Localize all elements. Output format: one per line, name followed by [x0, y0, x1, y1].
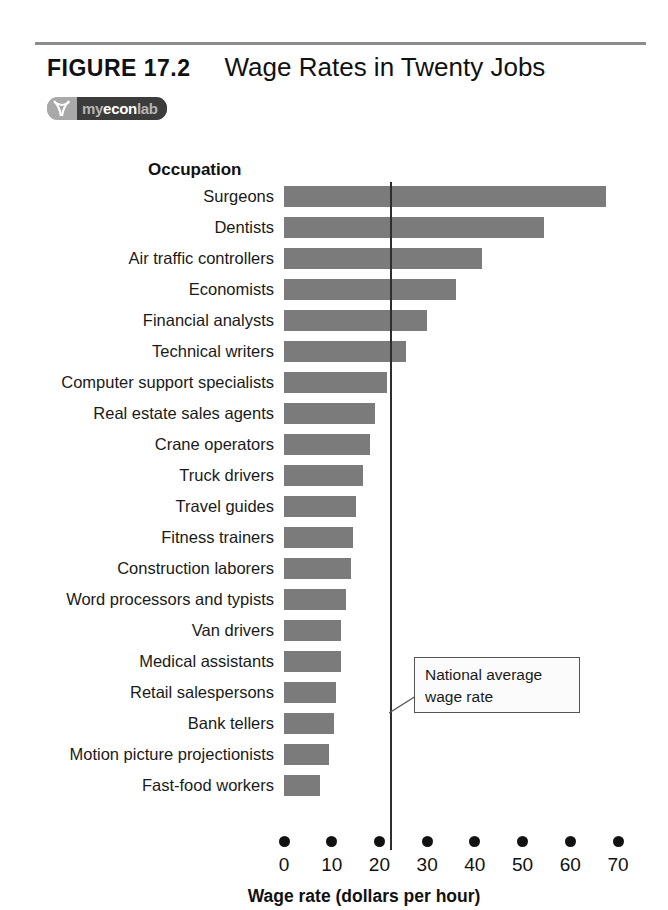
- bar: [284, 279, 456, 300]
- bar-category-label: Medical assistants: [0, 651, 274, 672]
- bar: [284, 682, 336, 703]
- national-average-callout: National average wage rate: [414, 657, 580, 713]
- x-axis: Wage rate (dollars per hour) 01020304050…: [0, 836, 668, 910]
- x-tick-dot: [469, 836, 480, 847]
- bar-category-label: Fitness trainers: [0, 527, 274, 548]
- bar-category-label: Financial analysts: [0, 310, 274, 331]
- bar-category-label: Real estate sales agents: [0, 403, 274, 424]
- bar-category-label: Travel guides: [0, 496, 274, 517]
- bar-category-label: Computer support specialists: [0, 372, 274, 393]
- bar-row: Construction laborers: [0, 558, 668, 589]
- bar: [284, 775, 320, 796]
- bar-category-label: Crane operators: [0, 434, 274, 455]
- bar-category-label: Construction laborers: [0, 558, 274, 579]
- bar-row: Financial analysts: [0, 310, 668, 341]
- bar-row: Crane operators: [0, 434, 668, 465]
- myeconlab-wordmark: myeconlab: [77, 97, 167, 120]
- myeconlab-logo-icon: [47, 97, 77, 120]
- bar: [284, 465, 363, 486]
- callout-line-2: wage rate: [425, 686, 571, 708]
- bar-category-label: Air traffic controllers: [0, 248, 274, 269]
- bar: [284, 713, 334, 734]
- bar: [284, 558, 351, 579]
- bar: [284, 248, 482, 269]
- x-tick-dot: [517, 836, 528, 847]
- bar: [284, 310, 427, 331]
- bar-row: Air traffic controllers: [0, 248, 668, 279]
- bar-category-label: Truck drivers: [0, 465, 274, 486]
- bar: [284, 341, 406, 362]
- x-tick-dot: [279, 836, 290, 847]
- bar-row: Fast-food workers: [0, 775, 668, 806]
- x-tick-label: 10: [309, 854, 355, 876]
- national-average-wage-line: [390, 182, 392, 850]
- x-tick-dot: [613, 836, 624, 847]
- bar-row: Real estate sales agents: [0, 403, 668, 434]
- bar-category-label: Dentists: [0, 217, 274, 238]
- badge-my-text: my: [82, 100, 103, 117]
- x-tick-label: 40: [452, 854, 498, 876]
- bar-row: Truck drivers: [0, 465, 668, 496]
- bar: [284, 527, 353, 548]
- bar: [284, 589, 346, 610]
- bar: [284, 434, 370, 455]
- x-tick-label: 50: [500, 854, 546, 876]
- bar: [284, 372, 387, 393]
- x-tick-label: 0: [261, 854, 307, 876]
- bar-row: Motion picture projectionists: [0, 744, 668, 775]
- x-tick-dot: [422, 836, 433, 847]
- figure-header: FIGURE 17.2 Wage Rates in Twenty Jobs: [47, 52, 647, 90]
- header-divider: [35, 42, 646, 45]
- x-tick-dot: [326, 836, 337, 847]
- bar-row: Surgeons: [0, 186, 668, 217]
- bar: [284, 620, 341, 641]
- badge-econ-text: econ: [103, 100, 137, 117]
- bar-category-label: Motion picture projectionists: [0, 744, 274, 765]
- bar: [284, 651, 341, 672]
- x-tick-label: 30: [404, 854, 450, 876]
- x-tick-dot: [565, 836, 576, 847]
- bar-row: Fitness trainers: [0, 527, 668, 558]
- bar: [284, 496, 356, 517]
- y-axis-title: Occupation: [148, 160, 242, 180]
- plot-area: SurgeonsDentistsAir traffic controllersE…: [0, 186, 668, 816]
- callout-line-1: National average: [425, 664, 571, 686]
- bar-row: Bank tellers: [0, 713, 668, 744]
- bar: [284, 403, 375, 424]
- bar-category-label: Fast-food workers: [0, 775, 274, 796]
- bar-category-label: Economists: [0, 279, 274, 300]
- bar-category-label: Bank tellers: [0, 713, 274, 734]
- bar-row: Travel guides: [0, 496, 668, 527]
- bar-row: Van drivers: [0, 620, 668, 651]
- x-tick-dot: [374, 836, 385, 847]
- x-tick-label: 20: [356, 854, 402, 876]
- bar-row: Technical writers: [0, 341, 668, 372]
- bar-category-label: Retail salespersons: [0, 682, 274, 703]
- figure-title: Wage Rates in Twenty Jobs: [225, 52, 546, 83]
- bar-row: Economists: [0, 279, 668, 310]
- bar: [284, 186, 606, 207]
- figure-number: FIGURE 17.2: [47, 55, 191, 82]
- bar-category-label: Technical writers: [0, 341, 274, 362]
- x-tick-label: 60: [547, 854, 593, 876]
- x-axis-title: Wage rate (dollars per hour): [0, 886, 668, 907]
- bar-category-label: Surgeons: [0, 186, 274, 207]
- figure-container: FIGURE 17.2 Wage Rates in Twenty Jobs my…: [0, 0, 668, 910]
- bar-category-label: Word processors and typists: [0, 589, 274, 610]
- bar-category-label: Van drivers: [0, 620, 274, 641]
- bar: [284, 217, 544, 238]
- x-tick-label: 70: [595, 854, 641, 876]
- bar-row: Computer support specialists: [0, 372, 668, 403]
- myeconlab-badge[interactable]: myeconlab: [47, 97, 167, 120]
- bar-row: Dentists: [0, 217, 668, 248]
- badge-lab-text: lab: [137, 100, 158, 117]
- bar-row: Word processors and typists: [0, 589, 668, 620]
- bar: [284, 744, 329, 765]
